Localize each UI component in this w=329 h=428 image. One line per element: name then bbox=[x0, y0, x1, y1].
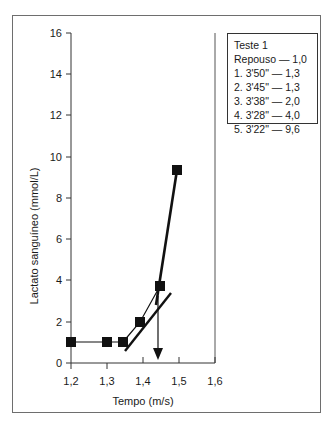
legend-entry: 2. 3'45" — 1,3 bbox=[234, 80, 317, 94]
svg-text:6: 6 bbox=[56, 233, 62, 245]
svg-text:2: 2 bbox=[56, 316, 62, 328]
legend-entry: Repouso — 1,0 bbox=[234, 52, 317, 66]
y-tick-labels: 0 2 4 6 8 10 12 14 16 bbox=[50, 27, 62, 369]
y-axis-label: Lactato sanguíneo (mmol/L) bbox=[28, 168, 40, 305]
legend: Teste 1 Repouso — 1,0 1. 3'50" — 1,3 2. … bbox=[227, 33, 318, 124]
legend-entry: 4. 3'28" — 4,0 bbox=[234, 108, 317, 122]
legend-entry: 3. 3'38" — 2,0 bbox=[234, 94, 317, 108]
legend-entry: 1. 3'50" — 1,3 bbox=[234, 66, 317, 80]
data-point bbox=[155, 281, 165, 291]
data-point bbox=[102, 337, 112, 347]
svg-text:1,6: 1,6 bbox=[207, 375, 222, 387]
series-lines bbox=[71, 170, 177, 351]
svg-text:14: 14 bbox=[50, 68, 62, 80]
data-point bbox=[172, 165, 182, 175]
y-ticks bbox=[66, 33, 71, 363]
legend-title: Teste 1 bbox=[234, 38, 317, 52]
svg-text:12: 12 bbox=[50, 109, 62, 121]
legend-entry: 5. 3'22" — 9,6 bbox=[234, 122, 317, 136]
x-axis-label: Tempo (m/s) bbox=[112, 395, 173, 407]
svg-text:4: 4 bbox=[56, 274, 62, 286]
svg-text:1,5: 1,5 bbox=[171, 375, 186, 387]
data-point bbox=[118, 337, 128, 347]
svg-text:16: 16 bbox=[50, 27, 62, 39]
x-tick-labels: 1,2 1,3 1,4 1,5 1,6 bbox=[63, 375, 222, 387]
svg-text:1,2: 1,2 bbox=[63, 375, 78, 387]
svg-text:0: 0 bbox=[56, 357, 62, 369]
svg-text:10: 10 bbox=[50, 151, 62, 163]
svg-text:8: 8 bbox=[56, 192, 62, 204]
data-point bbox=[66, 337, 76, 347]
data-point bbox=[135, 317, 145, 327]
svg-text:1,3: 1,3 bbox=[99, 375, 114, 387]
svg-text:1,4: 1,4 bbox=[135, 375, 150, 387]
